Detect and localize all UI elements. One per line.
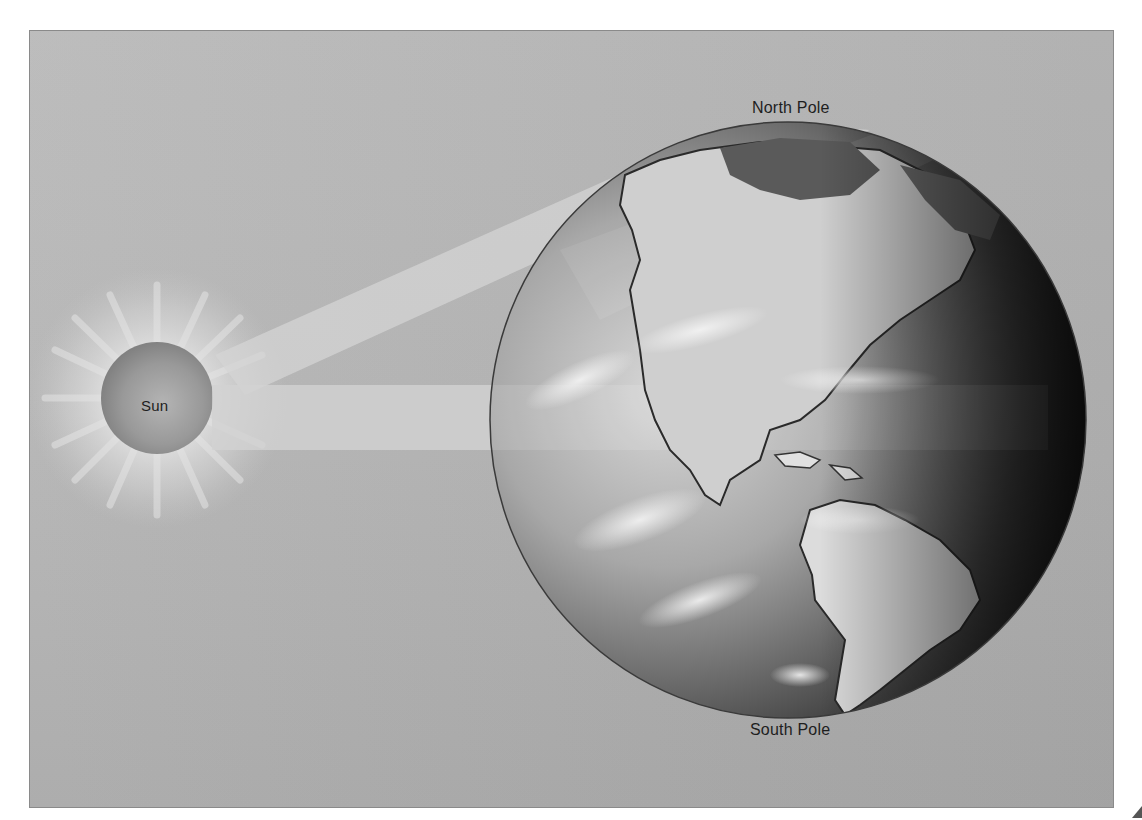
sun-earth-illustration — [0, 0, 1142, 820]
south-pole-label: South Pole — [750, 721, 830, 739]
sun-label: Sun — [141, 397, 168, 414]
earth-globe — [488, 120, 1090, 720]
sunlight-beam-direct — [212, 385, 512, 450]
page-corner-mark — [1132, 806, 1142, 818]
north-pole-label: North Pole — [752, 99, 830, 117]
